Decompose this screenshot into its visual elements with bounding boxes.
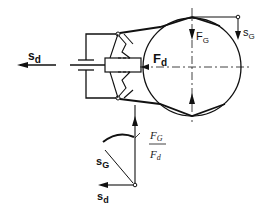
drive-force-arrow	[141, 64, 149, 70]
toggle-links-lower	[110, 72, 133, 100]
gripping-force-arrow-bottom	[189, 93, 195, 104]
toggle-links-upper	[110, 32, 133, 58]
label-sG: sG	[243, 26, 255, 41]
slider-block	[105, 58, 141, 72]
ratio-curve	[103, 134, 134, 142]
label-FG: FG	[196, 30, 209, 45]
ratio-diagram-axes	[98, 105, 138, 188]
label-sd-left: sd	[28, 49, 41, 65]
label-sd-ratio: sd	[97, 190, 109, 205]
label-sG-ratio: sG	[96, 155, 109, 170]
drive-rod	[70, 60, 105, 70]
label-ratio-numerator: FG	[149, 129, 163, 143]
label-ratio-denominator: Fd	[149, 148, 162, 162]
gripping-force-arrow-top	[189, 29, 195, 40]
label-Fd: Fd	[153, 51, 167, 68]
gripper-mechanism-diagram: sd FG	[0, 0, 266, 212]
